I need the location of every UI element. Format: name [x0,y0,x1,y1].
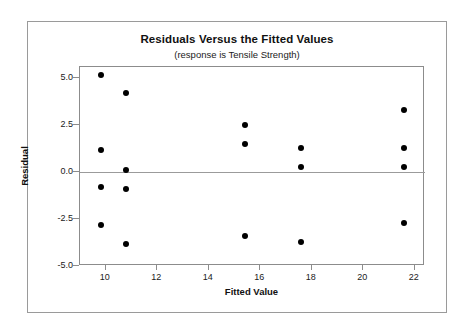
data-point [401,107,407,113]
x-axis-tick-label: 20 [347,272,377,282]
data-point [401,145,407,151]
y-axis-tick-label: 5.0 [33,72,73,82]
plot-area [79,66,424,265]
x-axis-tick [156,265,157,270]
x-axis-tick [208,265,209,270]
data-point [123,241,129,247]
x-axis-tick-label: 18 [296,272,326,282]
data-point [98,147,104,153]
x-axis-tick [362,265,363,270]
figure-root: Residuals Versus the Fitted Values (resp… [0,0,471,326]
zero-reference-line [80,172,425,173]
data-point [123,90,129,96]
data-point [298,145,304,151]
data-point [98,72,104,78]
y-axis-tick-label: 0.0 [33,166,73,176]
data-point [242,141,248,147]
x-axis-title: Fitted Value [79,286,424,297]
x-axis-tick-label: 12 [141,272,171,282]
x-axis-tick-label: 10 [90,272,120,282]
data-point [298,164,304,170]
x-axis-tick [105,265,106,270]
data-point [242,233,248,239]
y-axis-tick [73,265,79,266]
data-point [123,186,129,192]
y-axis-tick-label: 2.5 [33,119,73,129]
y-axis-labels: 5.02.50.0-2.5-5.0 [28,0,73,326]
x-axis-tick [414,265,415,270]
data-point [401,220,407,226]
y-axis-tick-label: -2.5 [33,213,73,223]
chart-title: Residuals Versus the Fitted Values [27,33,447,45]
x-axis-tick-label: 16 [244,272,274,282]
data-point [242,122,248,128]
x-axis-tick [311,265,312,270]
data-point [98,222,104,228]
chart-subtitle: (response is Tensile Strength) [27,49,447,60]
plot-inner [80,67,423,264]
data-point [98,184,104,190]
data-point [401,164,407,170]
x-axis-tick-label: 14 [193,272,223,282]
y-axis-tick-label: -5.0 [33,260,73,270]
x-axis-tick [259,265,260,270]
data-point [298,239,304,245]
x-axis-tick-label: 22 [399,272,429,282]
